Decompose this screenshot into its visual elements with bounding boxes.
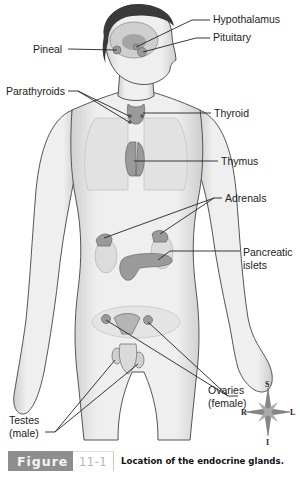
label-pancreatic: Pancreatic <box>243 246 293 258</box>
adrenal-gland-right <box>152 231 168 242</box>
label-pineal: Pineal <box>33 43 62 55</box>
figure-label: Figure <box>8 451 73 471</box>
label-adrenals: Adrenals <box>225 192 266 204</box>
thymus-gland <box>126 142 145 176</box>
caption-text: Location of the endocrine glands. <box>114 451 284 471</box>
figure-caption: Figure 11-1 Location of the endocrine gl… <box>8 451 284 471</box>
label-thymus: Thymus <box>221 155 258 167</box>
figure-number: 11-1 <box>73 451 114 471</box>
ovary-right <box>144 316 153 325</box>
compass-inferior: I <box>266 437 269 449</box>
label-parathyroids: Parathyroids <box>6 85 65 97</box>
label-testes: Testes <box>9 414 39 426</box>
endocrine-illustration <box>0 0 300 488</box>
body-silhouette <box>14 5 273 440</box>
compass-left: L <box>290 407 295 419</box>
label-hypothalamus: Hypothalamus <box>213 13 280 25</box>
compass-superior: S <box>265 379 269 391</box>
compass-right: R <box>241 407 247 419</box>
label-ovaries: Ovaries <box>208 384 244 396</box>
compass-rose <box>246 388 290 436</box>
label-pituitary: Pituitary <box>213 31 251 43</box>
label-male: (male) <box>9 427 39 439</box>
label-thyroid: Thyroid <box>214 107 249 119</box>
pituitary-gland <box>138 48 147 57</box>
label-islets: islets <box>243 259 267 271</box>
